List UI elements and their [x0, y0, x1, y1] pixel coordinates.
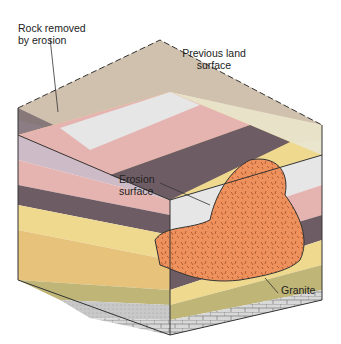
- label-line: by erosion: [18, 34, 86, 46]
- label-granite: Granite: [281, 284, 315, 296]
- label-line: Erosion: [119, 173, 155, 185]
- label-line: surface: [119, 185, 155, 197]
- label-rock-removed: Rock removed by erosion: [18, 22, 86, 46]
- label-line: Rock removed: [18, 22, 86, 34]
- label-erosion-surface: Erosion surface: [119, 173, 155, 197]
- label-previous-surface: Previous land surface: [173, 47, 255, 71]
- label-line: Previous land: [173, 47, 255, 59]
- label-line: surface: [173, 59, 255, 71]
